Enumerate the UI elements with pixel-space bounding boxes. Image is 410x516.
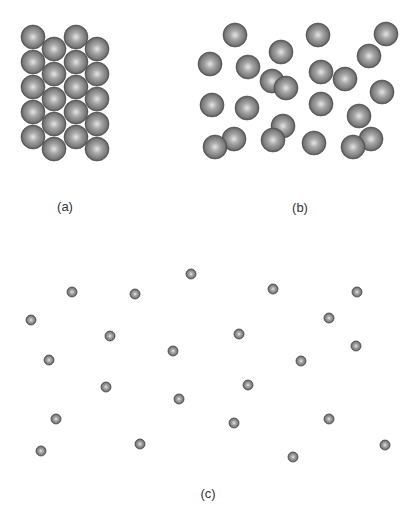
sphere xyxy=(85,37,109,61)
sphere xyxy=(51,414,61,424)
sphere xyxy=(64,100,88,124)
panel-c-label: (c) xyxy=(200,486,215,501)
sphere xyxy=(85,87,109,111)
panel-c-spheres xyxy=(26,269,390,462)
sphere xyxy=(288,452,298,462)
sphere xyxy=(236,55,260,79)
particle-arrangement-figure: (a) (b) (c) xyxy=(0,0,410,516)
panel-a-spheres xyxy=(21,25,109,161)
sphere xyxy=(42,112,66,136)
sphere xyxy=(21,25,45,49)
sphere xyxy=(374,22,398,46)
sphere xyxy=(64,25,88,49)
sphere xyxy=(347,104,371,128)
sphere xyxy=(223,23,247,47)
sphere xyxy=(370,80,394,104)
sphere xyxy=(234,329,244,339)
sphere xyxy=(200,93,224,117)
sphere xyxy=(309,92,333,116)
sphere xyxy=(21,50,45,74)
sphere xyxy=(309,60,333,84)
sphere xyxy=(333,67,357,91)
panel-b-spheres xyxy=(198,22,398,159)
sphere xyxy=(36,446,46,456)
sphere xyxy=(42,62,66,86)
sphere xyxy=(302,131,326,155)
sphere xyxy=(203,135,227,159)
sphere xyxy=(101,382,111,392)
sphere xyxy=(21,100,45,124)
sphere xyxy=(296,356,306,366)
sphere xyxy=(105,331,115,341)
sphere xyxy=(269,40,293,64)
sphere xyxy=(67,287,77,297)
sphere xyxy=(64,125,88,149)
sphere xyxy=(85,137,109,161)
sphere xyxy=(341,135,365,159)
sphere xyxy=(21,75,45,99)
sphere xyxy=(130,289,140,299)
sphere xyxy=(351,341,361,351)
sphere xyxy=(357,44,381,68)
sphere xyxy=(229,418,239,428)
sphere xyxy=(174,394,184,404)
panel-b-label: (b) xyxy=(292,200,308,215)
sphere xyxy=(85,62,109,86)
sphere xyxy=(85,112,109,136)
sphere xyxy=(274,76,298,100)
sphere xyxy=(352,287,362,297)
sphere xyxy=(26,315,36,325)
sphere xyxy=(261,128,285,152)
sphere xyxy=(324,414,334,424)
sphere xyxy=(243,380,253,390)
sphere xyxy=(42,137,66,161)
panel-a-label: (a) xyxy=(57,199,73,214)
sphere xyxy=(268,284,278,294)
sphere xyxy=(235,96,259,120)
sphere xyxy=(306,23,330,47)
sphere xyxy=(64,50,88,74)
sphere xyxy=(21,125,45,149)
sphere xyxy=(135,439,145,449)
sphere xyxy=(380,440,390,450)
sphere xyxy=(186,269,196,279)
sphere xyxy=(42,37,66,61)
figure-canvas xyxy=(0,0,410,516)
sphere xyxy=(64,75,88,99)
sphere xyxy=(198,52,222,76)
sphere xyxy=(168,346,178,356)
sphere xyxy=(324,313,334,323)
sphere xyxy=(44,355,54,365)
sphere xyxy=(42,87,66,111)
